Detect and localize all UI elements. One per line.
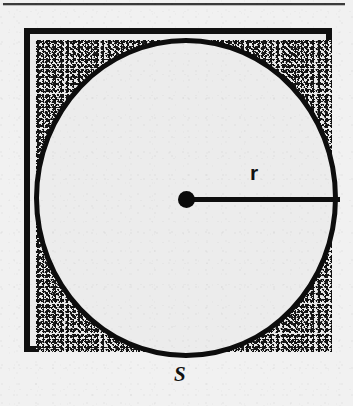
page-top-rule <box>3 3 345 5</box>
square-shape <box>24 28 332 352</box>
scanned-page: r S <box>0 0 353 406</box>
side-label: S <box>174 364 186 385</box>
center-point-dot <box>178 191 195 208</box>
radius-label: r <box>250 162 258 183</box>
radius-segment <box>186 197 340 202</box>
geometry-figure: r S <box>22 26 334 354</box>
